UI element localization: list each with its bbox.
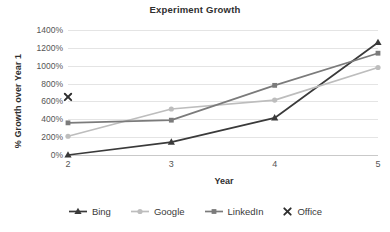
legend-item-bing[interactable]: Bing <box>68 206 111 217</box>
data-point-bing <box>374 39 381 45</box>
series-layer <box>68 30 378 155</box>
y-tick-label: 200% <box>41 132 63 142</box>
legend-marker-triangle-icon <box>68 206 88 217</box>
legend-marker-glyph <box>137 209 142 214</box>
legend-label: LinkedIn <box>228 206 264 217</box>
legend-item-linkedin[interactable]: LinkedIn <box>204 206 264 217</box>
x-tick-label: 4 <box>272 159 277 169</box>
data-point-google <box>272 97 277 102</box>
legend-marker-circle-icon <box>130 206 150 217</box>
series-line-bing <box>68 43 378 156</box>
legend-item-google[interactable]: Google <box>130 206 185 217</box>
data-point-google <box>65 134 70 139</box>
x-tick-label: 3 <box>169 159 174 169</box>
legend-marker-square-icon <box>204 206 224 217</box>
y-tick-label: 400% <box>41 114 63 124</box>
y-tick-label: 800% <box>41 79 63 89</box>
legend-marker-glyph <box>285 208 291 214</box>
data-point-linkedin <box>272 83 277 88</box>
x-axis-title: Year <box>68 176 380 186</box>
x-tick-label: 5 <box>375 159 380 169</box>
data-point-linkedin <box>169 118 174 123</box>
series-line-linkedin <box>68 53 378 123</box>
y-tick-label: 1000% <box>37 61 63 71</box>
legend-marker-x-icon <box>282 206 293 217</box>
plot-area: 0%200%400%600%800%1000%1200%1400% 2345 <box>68 30 378 155</box>
data-point-google <box>169 106 174 111</box>
legend-item-office[interactable]: Office <box>282 206 322 217</box>
chart-legend: BingGoogleLinkedInOffice <box>0 206 390 217</box>
chart-title: Experiment Growth <box>0 4 390 15</box>
y-tick-label: 600% <box>41 96 63 106</box>
data-point-linkedin <box>66 120 71 125</box>
data-point-office <box>65 94 71 100</box>
legend-label: Office <box>297 206 322 217</box>
x-tick-label: 2 <box>65 159 70 169</box>
y-tick-label: 1200% <box>37 43 63 53</box>
y-tick-label: 0% <box>51 150 63 160</box>
data-point-google <box>375 65 380 70</box>
chart-container: Experiment Growth % Growth over Year 1 0… <box>0 0 390 232</box>
legend-label: Google <box>154 206 185 217</box>
x-axis-line <box>68 155 378 156</box>
legend-marker-glyph <box>211 209 216 214</box>
data-point-linkedin <box>376 51 381 56</box>
y-axis-title: % Growth over Year 1 <box>13 31 23 171</box>
y-tick-label: 1400% <box>37 25 63 35</box>
legend-label: Bing <box>92 206 111 217</box>
